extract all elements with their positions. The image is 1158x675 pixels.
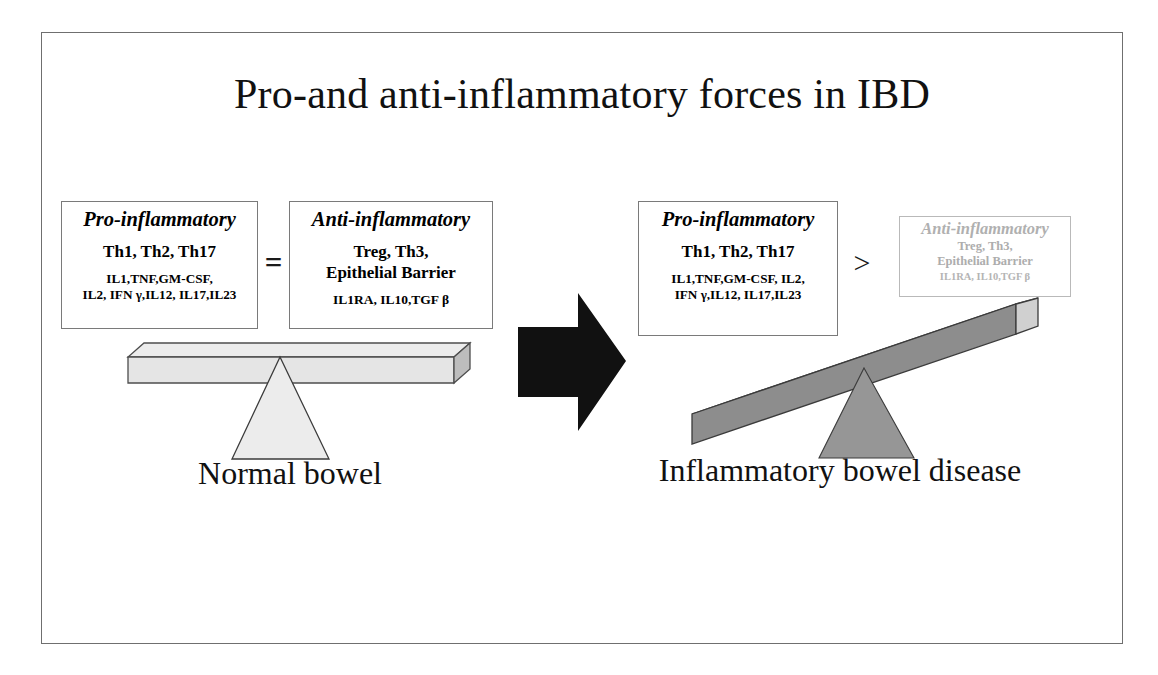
greater-than-operator: > bbox=[845, 246, 879, 280]
anti-inflammatory-mediators-left: IL1RA, IL10,TGF β bbox=[296, 292, 486, 308]
slide-canvas: Pro-and anti-inflammatory forces in IBD … bbox=[0, 0, 1158, 675]
beam-top-face-level bbox=[128, 343, 470, 357]
equals-operator: = bbox=[258, 245, 289, 281]
anti-inflammatory-box-right: Anti-inflammatory Treg, Th3, Epithelial … bbox=[899, 216, 1071, 297]
beam-end-face-tilted bbox=[1016, 298, 1038, 334]
anti-inflammatory-cells-right-line1: Treg, Th3, bbox=[904, 239, 1066, 254]
pro-inflammatory-cells-right: Th1, Th2, Th17 bbox=[645, 241, 831, 262]
anti-inflammatory-box-left: Anti-inflammatory Treg, Th3, Epithelial … bbox=[289, 201, 493, 329]
anti-inflammatory-heading-left: Anti-inflammatory bbox=[296, 208, 486, 232]
balance-scale-tilted bbox=[686, 296, 1042, 460]
caption-inflammatory-bowel-disease: Inflammatory bowel disease bbox=[630, 452, 1050, 489]
pro-inflammatory-box-left: Pro-inflammatory Th1, Th2, Th17 IL1,TNF,… bbox=[61, 201, 258, 329]
balance-scale-level bbox=[124, 333, 472, 463]
pro-inflammatory-mediators-left-line2: IL2, IFN γ,IL12, IL17,IL23 bbox=[68, 287, 251, 303]
page-title: Pro-and anti-inflammatory forces in IBD bbox=[41, 70, 1123, 118]
right-arrow-icon bbox=[516, 291, 628, 433]
arrow-shape bbox=[518, 293, 626, 431]
pro-inflammatory-mediators-left-line1: IL1,TNF,GM-CSF, bbox=[68, 271, 251, 287]
pro-inflammatory-mediators-right-line1: IL1,TNF,GM-CSF, IL2, bbox=[645, 271, 831, 287]
anti-inflammatory-cells-left-line2: Epithelial Barrier bbox=[296, 262, 486, 283]
pro-inflammatory-heading-left: Pro-inflammatory bbox=[68, 208, 251, 232]
anti-inflammatory-mediators-right: IL1RA, IL10,TGF β bbox=[904, 271, 1066, 284]
pro-inflammatory-heading-right: Pro-inflammatory bbox=[645, 208, 831, 232]
caption-normal-bowel: Normal bowel bbox=[110, 455, 470, 492]
pro-inflammatory-cells-left: Th1, Th2, Th17 bbox=[68, 241, 251, 262]
anti-inflammatory-heading-right: Anti-inflammatory bbox=[904, 220, 1066, 238]
anti-inflammatory-cells-right-line2: Epithelial Barrier bbox=[904, 254, 1066, 269]
anti-inflammatory-cells-left-line1: Treg, Th3, bbox=[296, 241, 486, 262]
